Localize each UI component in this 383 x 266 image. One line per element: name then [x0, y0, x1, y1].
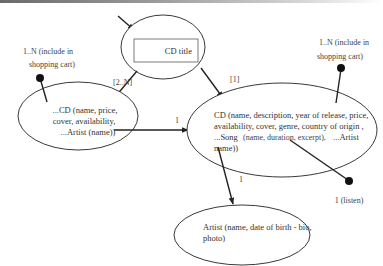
list-cart-line-2: shopping cart)	[29, 60, 75, 69]
list-cart-line-1: 1..N (include in	[23, 47, 73, 56]
cd-detail-line-1: CD (name, description, year of release, …	[214, 110, 368, 120]
list-cart-dot	[36, 74, 44, 82]
cd-detail-song-fields: (name, duration, excerpt),	[243, 133, 326, 142]
navigation-diagram: CD title [2..N] [1] ...CD (name, price, …	[0, 0, 383, 266]
edge-label-1-bracket: [1]	[230, 75, 240, 84]
listen-dot	[345, 177, 353, 185]
detail-cart-line-2: shopping cart)	[317, 52, 363, 61]
node-artist[interactable]: Artist (name, date of birth - bio, photo…	[174, 205, 312, 265]
node-cd-title[interactable]: CD title	[121, 15, 205, 79]
detail-cart-dot	[337, 64, 345, 72]
cd-list-line-3: ...Artist (name))	[61, 127, 116, 137]
edge-label-2-n: [2..N]	[113, 78, 132, 87]
cd-list-line-1: ...CD (name, price,	[53, 105, 118, 115]
edge-label-list-detail: 1	[175, 116, 179, 125]
artist-line-2: photo)	[203, 233, 225, 243]
node-cd-list[interactable]: ...CD (name, price, cover, availability,…	[18, 82, 138, 150]
cd-list-line-2: cover, availability,	[53, 116, 116, 126]
cd-title-label: CD title	[165, 46, 192, 56]
node-cd-detail[interactable]: CD (name, description, year of release, …	[187, 83, 377, 177]
artist-ellipse	[174, 205, 310, 265]
cd-detail-line-2: availability, cover, genre, country of o…	[214, 121, 364, 131]
detail-cart-line-1: 1..N (include in	[319, 38, 369, 47]
diagram-canvas: CD title [2..N] [1] ...CD (name, price, …	[0, 0, 383, 266]
cd-detail-song-prefix: ...Song	[214, 132, 239, 142]
cd-detail-artist-prefix: ...Artist	[333, 132, 359, 142]
edge-title-to-detail	[201, 68, 223, 98]
listen-label: 1 (listen)	[335, 196, 364, 205]
artist-line-1: Artist (name, date of birth - bio,	[203, 222, 312, 232]
edge-label-detail-artist: 1	[239, 175, 243, 184]
